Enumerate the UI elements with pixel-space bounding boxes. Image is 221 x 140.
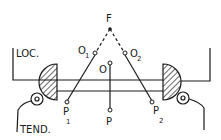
right-roller-hub xyxy=(181,96,185,100)
focus-point xyxy=(108,27,112,31)
label-o1-sub: 1 xyxy=(85,52,89,60)
label-tender: TEND. xyxy=(19,124,51,135)
left-roller xyxy=(31,93,43,105)
point-p2 xyxy=(150,100,154,104)
label-f: F xyxy=(106,13,112,24)
point-p1 xyxy=(65,100,69,104)
label-locomotive: LOC. xyxy=(16,48,39,59)
dashed-line-f-o2 xyxy=(110,29,124,52)
coupling-diagram: F O 1 O 2 O P 1 P P 2 LOC. TEND. xyxy=(0,0,221,140)
left-roller-hub xyxy=(35,97,39,101)
point-o2 xyxy=(123,51,127,55)
right-roller xyxy=(177,92,189,104)
label-p: P xyxy=(106,116,112,127)
point-p xyxy=(108,108,112,112)
label-p1: P xyxy=(63,106,69,117)
point-o xyxy=(108,61,112,65)
label-p2-sub: 2 xyxy=(159,117,163,125)
tender-frame xyxy=(181,48,210,81)
label-p2: P xyxy=(153,105,159,116)
dashed-line-f-o1 xyxy=(96,29,110,52)
label-o2-sub: 2 xyxy=(137,55,141,63)
point-o1 xyxy=(93,51,97,55)
tender-line-right xyxy=(189,99,204,130)
link-o1-p1 xyxy=(67,55,95,101)
label-o: O xyxy=(99,64,107,75)
label-p1-sub: 1 xyxy=(66,118,70,126)
